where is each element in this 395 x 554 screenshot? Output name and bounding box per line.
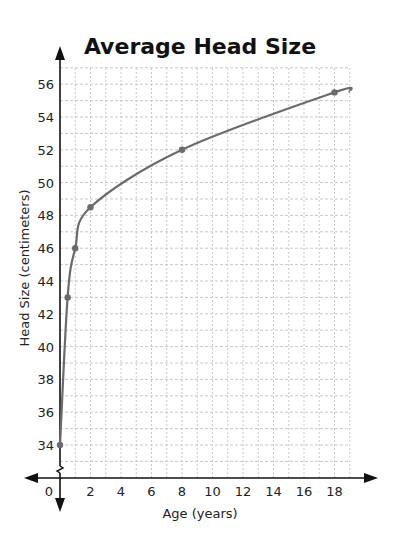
x-tick-label: 14 [265, 484, 282, 499]
x-tick-label: 18 [326, 484, 343, 499]
x-tick-label: 2 [86, 484, 94, 499]
y-tick-label: 40 [37, 340, 54, 355]
y-tick-label: 52 [37, 143, 54, 158]
x-axis-label: Age (years) [162, 506, 237, 521]
chart-title: Average Head Size [84, 34, 316, 59]
x-tick-labels: 024681012141618 [45, 484, 343, 499]
grid [60, 68, 350, 478]
data-point [87, 204, 93, 210]
x-tick-label: 12 [235, 484, 252, 499]
y-tick-label: 54 [37, 110, 54, 125]
y-axis-label: Head Size (centimeters) [17, 189, 32, 346]
y-tick-label: 38 [37, 372, 54, 387]
data-point [179, 147, 185, 153]
x-tick-label: 4 [117, 484, 125, 499]
y-tick-label: 48 [37, 208, 54, 223]
y-tick-label: 50 [37, 176, 54, 191]
x-tick-label: 10 [204, 484, 221, 499]
data-point [72, 245, 78, 251]
x-tick-label: 6 [147, 484, 155, 499]
y-tick-label: 42 [37, 307, 54, 322]
y-tick-label: 46 [37, 241, 54, 256]
axes [24, 46, 378, 512]
data-point [64, 294, 70, 300]
y-tick-label: 34 [37, 438, 54, 453]
y-tick-label: 56 [37, 77, 54, 92]
x-tick-label: 8 [178, 484, 186, 499]
data-point [331, 89, 337, 95]
x-tick-label: 0 [45, 484, 53, 499]
head-size-chart: Average Head Size 024681012141618 343638… [0, 0, 395, 554]
y-tick-label: 36 [37, 405, 54, 420]
y-tick-labels: 343638404244464850525456 [37, 77, 54, 453]
y-tick-label: 44 [37, 274, 54, 289]
x-tick-label: 16 [296, 484, 313, 499]
data-point [57, 442, 63, 448]
series-line [60, 88, 352, 445]
